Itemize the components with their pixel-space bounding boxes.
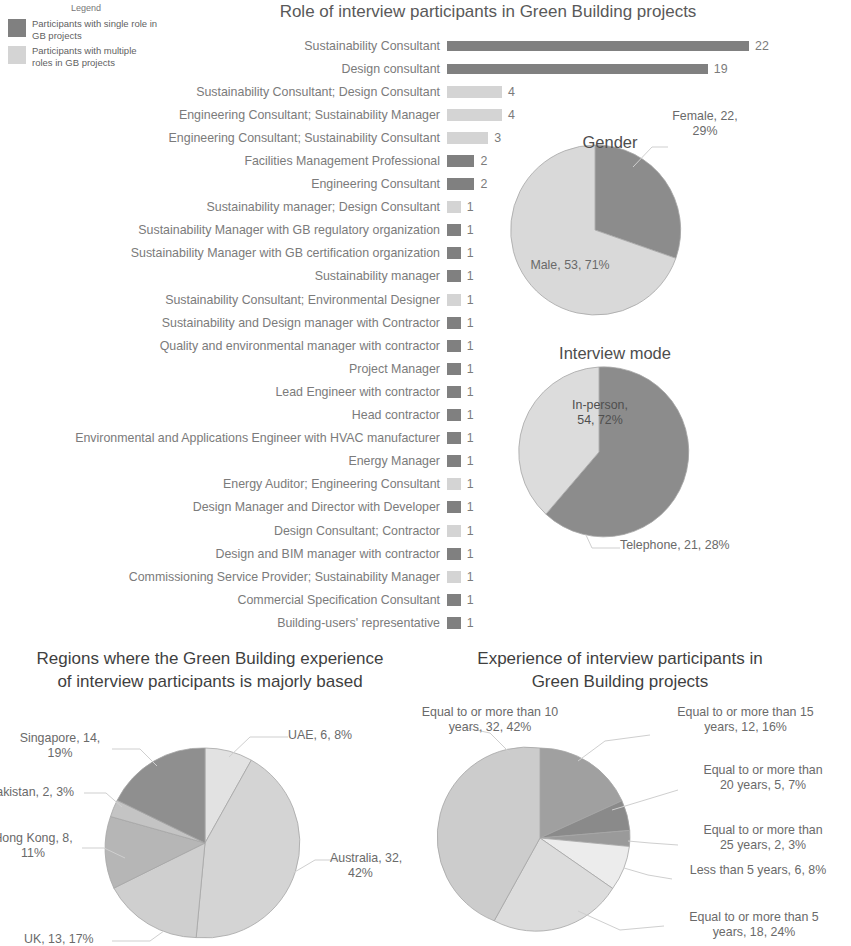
gender-label-male: Male, 53, 71%	[510, 258, 630, 273]
bar-category-label: Head contractor	[0, 408, 447, 422]
experience-label-20yr: Equal to or more than20 years, 5, 7%	[678, 763, 848, 793]
bar-category-label: Sustainability Manager with GB certifica…	[0, 246, 447, 260]
bar-value-label: 19	[714, 62, 728, 76]
gender-chart: Gender Female, 22,29% Male, 53, 71%	[500, 125, 840, 340]
bar-fill-multiple	[447, 294, 461, 306]
bar-value-label: 1	[467, 362, 474, 376]
bar-fill-single	[447, 317, 461, 329]
bar-value-label: 1	[467, 293, 474, 307]
bar-fill-multiple	[447, 86, 502, 98]
bar-row: Sustainability Consultant22	[0, 34, 800, 57]
bar-fill-single	[447, 548, 461, 560]
regions-label-uae: UAE, 6, 8%	[288, 728, 352, 743]
bar-value-label: 1	[467, 385, 474, 399]
bar-value-label: 1	[467, 431, 474, 445]
bar-row: Design consultant19	[0, 57, 800, 80]
bar-fill-multiple	[447, 132, 488, 144]
bar-value-label: 1	[467, 316, 474, 330]
regions-label-hongkong: Hong Kong, 8,11%	[0, 831, 82, 861]
bar-row: Commercial Specification Consultant1	[0, 588, 800, 611]
interview-label-inperson: In-person,54, 72%	[545, 398, 655, 428]
regions-label-singapore: Singapore, 14,19%	[10, 731, 110, 761]
bar-chart-title: Role of interview participants in Green …	[228, 2, 748, 22]
regions-chart-title: Regions where the Green Building experie…	[0, 647, 420, 693]
bar-category-label: Facilities Management Professional	[0, 154, 447, 168]
experience-label-15yr: Equal to or more than 15years, 12, 16%	[648, 705, 843, 735]
bar-row: Sustainability Consultant; Design Consul…	[0, 80, 800, 103]
experience-chart-title: Experience of interview participants inG…	[420, 647, 820, 693]
bar-category-label: Engineering Consultant; Sustainability C…	[0, 131, 447, 145]
bar-category-label: Sustainability Manager with GB regulator…	[0, 223, 447, 237]
bar-category-label: Lead Engineer with contractor	[0, 385, 447, 399]
regions-label-pakistan: Pakistan, 2, 3%	[0, 785, 74, 800]
bar-category-label: Quality and environmental manager with c…	[0, 339, 447, 353]
bar-value-label: 1	[467, 408, 474, 422]
bar-fill-single	[447, 41, 749, 51]
bar-fill-multiple	[447, 525, 461, 537]
bar-track: 19	[447, 62, 800, 76]
bar-fill-single	[447, 340, 461, 352]
exp-15yr-leader	[578, 735, 650, 761]
interview-mode-chart: Interview mode In-person,54, 72% Telepho…	[500, 340, 840, 580]
bar-value-label: 4	[508, 108, 515, 122]
bar-value-label: 2	[480, 154, 487, 168]
bar-fill-multiple	[447, 478, 461, 490]
bar-value-label: 1	[467, 524, 474, 538]
bar-track: 1	[447, 616, 800, 630]
bar-track: 22	[447, 39, 800, 53]
bar-fill-single	[447, 178, 474, 190]
bar-category-label: Engineering Consultant; Sustainability M…	[0, 108, 447, 122]
bar-value-label: 1	[467, 547, 474, 561]
experience-label-5yr: Equal to or more than 5years, 18, 24%	[664, 910, 844, 940]
bar-fill-single	[447, 155, 474, 167]
bar-value-label: 1	[467, 593, 474, 607]
bar-category-label: Design and BIM manager with contractor	[0, 547, 447, 561]
bar-category-label: Sustainability manager; Design Consultan…	[0, 200, 447, 214]
regions-chart: Regions where the Green Building experie…	[0, 645, 430, 946]
interview-label-telephone: Telephone, 21, 28%	[620, 538, 780, 553]
bar-category-label: Engineering Consultant	[0, 177, 447, 191]
bar-value-label: 4	[508, 85, 515, 99]
bar-fill-single	[447, 270, 461, 282]
bar-fill-single	[447, 386, 461, 398]
bar-category-label: Sustainability manager	[0, 269, 447, 283]
gender-label-female: Female, 22,29%	[650, 109, 760, 139]
bar-category-label: Design consultant	[0, 62, 447, 76]
bar-category-label: Commercial Specification Consultant	[0, 593, 447, 607]
bar-fill-multiple	[447, 571, 461, 583]
bar-category-label: Energy Auditor; Engineering Consultant	[0, 477, 447, 491]
bar-fill-single	[447, 594, 461, 606]
experience-label-10yr: Equal to or more than 10years, 32, 42%	[390, 705, 590, 735]
bar-value-label: 1	[467, 477, 474, 491]
bar-value-label: 1	[467, 339, 474, 353]
bar-fill-single	[447, 247, 461, 259]
experience-label-25yr: Equal to or more than25 years, 2, 3%	[678, 823, 848, 853]
experience-label-lt5yr: Less than 5 years, 6, 8%	[668, 863, 848, 878]
bar-value-label: 1	[467, 500, 474, 514]
bar-fill-single	[447, 409, 461, 421]
bar-fill-multiple	[447, 109, 502, 121]
bar-category-label: Project Manager	[0, 362, 447, 376]
exp-lt5yr-leader	[624, 868, 672, 879]
gender-pie-svg	[500, 125, 840, 340]
bar-fill-multiple	[447, 201, 461, 213]
interview-mode-chart-title: Interview mode	[530, 344, 700, 363]
bar-value-label: 22	[755, 39, 769, 53]
bar-category-label: Commissioning Service Provider; Sustaina…	[0, 570, 447, 584]
bar-fill-single	[447, 432, 461, 444]
bar-fill-single	[447, 455, 461, 467]
bar-track: 4	[447, 85, 800, 99]
exp-25yr-leader	[628, 841, 678, 845]
bar-value-label: 1	[467, 246, 474, 260]
bar-value-label: 1	[467, 454, 474, 468]
legend-title: Legend	[26, 2, 146, 14]
bar-fill-single	[447, 617, 461, 629]
bar-value-label: 2	[480, 177, 487, 191]
bar-fill-single	[447, 64, 708, 74]
bar-category-label: Environmental and Applications Engineer …	[0, 431, 447, 445]
bar-category-label: Energy Manager	[0, 454, 447, 468]
bar-value-label: 1	[467, 223, 474, 237]
exp-5yr-leader	[578, 911, 664, 930]
bar-value-label: 1	[467, 200, 474, 214]
gender-chart-title: Gender	[560, 133, 660, 152]
